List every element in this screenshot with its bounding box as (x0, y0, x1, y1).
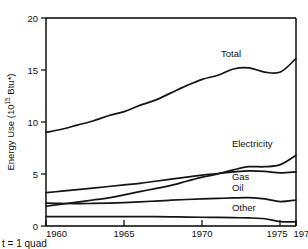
x-tick-label-1976: 1976 (293, 228, 308, 239)
series-label-gas: Gas (232, 171, 250, 182)
y-axis-title-main: Energy Use (10 (5, 104, 16, 170)
plot-area-background (46, 18, 296, 226)
series-label-oil: Oil (232, 182, 244, 193)
x-tick-label-1960: 1960 (46, 228, 67, 239)
y-tick-label-15: 15 (27, 65, 38, 76)
y-tick-label-5: 5 (33, 169, 38, 180)
x-tick-label-1965: 1965 (113, 228, 134, 239)
y-axis-title: Energy Use (1015 Btu*) (4, 73, 16, 170)
series-label-other: Other (232, 202, 256, 213)
series-label-total: Total (221, 48, 241, 59)
x-tick-label-1975: 1975 (266, 228, 287, 239)
y-tick-label-20: 20 (27, 13, 38, 24)
series-label-electricity: Electricity (232, 138, 273, 149)
footnote-text: t = 1 quad (2, 238, 47, 249)
y-axis-title-tail: Btu*) (5, 73, 16, 97)
y-tick-label-10: 10 (27, 117, 38, 128)
chart-figure: 20 15 10 5 0 1960 1965 1970 1975 1976 En… (0, 0, 308, 249)
energy-use-line-chart: 20 15 10 5 0 1960 1965 1970 1975 1976 En… (0, 0, 308, 249)
x-tick-label-1970: 1970 (191, 228, 212, 239)
svg-text:Energy Use (1015 Btu*): Energy Use (1015 Btu*) (4, 73, 16, 170)
y-tick-label-0: 0 (33, 221, 38, 232)
